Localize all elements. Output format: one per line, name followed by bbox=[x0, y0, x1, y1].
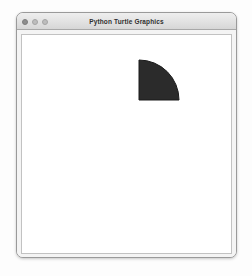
turtle-graphics-window[interactable]: Python Turtle Graphics bbox=[16, 12, 237, 258]
turtle-canvas[interactable] bbox=[21, 34, 232, 254]
window-titlebar[interactable]: Python Turtle Graphics bbox=[17, 13, 236, 30]
minimize-button-icon[interactable] bbox=[32, 19, 38, 25]
desktop-background: Python Turtle Graphics bbox=[0, 0, 252, 276]
zoom-button-icon[interactable] bbox=[42, 19, 48, 25]
window-controls[interactable] bbox=[22, 13, 48, 30]
quarter-circle-shape bbox=[22, 35, 232, 253]
quarter-circle-path bbox=[139, 60, 179, 100]
window-content bbox=[17, 30, 236, 258]
close-button-icon[interactable] bbox=[22, 19, 28, 25]
window-title: Python Turtle Graphics bbox=[17, 13, 236, 30]
